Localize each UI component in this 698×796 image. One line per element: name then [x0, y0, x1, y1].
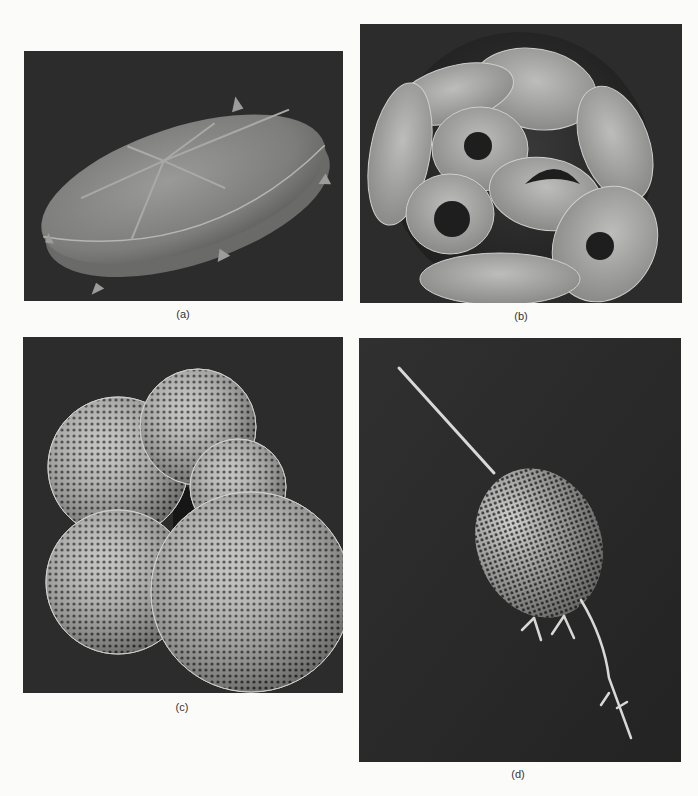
micrograph-panel-c: [23, 337, 343, 693]
radiolarian-specimen-image: [359, 338, 681, 762]
micrograph-panel-a: [24, 51, 343, 301]
micrograph-panel-d: [359, 338, 681, 762]
micrograph-panel-b: [360, 24, 682, 303]
panel-label-c: (c): [176, 701, 189, 713]
disc-specimen-image: [24, 51, 343, 301]
panel-label-b: (b): [514, 310, 527, 322]
coccosphere-specimen-image: [360, 24, 682, 303]
panel-label-a: (a): [176, 308, 189, 320]
panel-label-d: (d): [511, 768, 524, 780]
foraminifera-specimen-image: [23, 337, 343, 693]
